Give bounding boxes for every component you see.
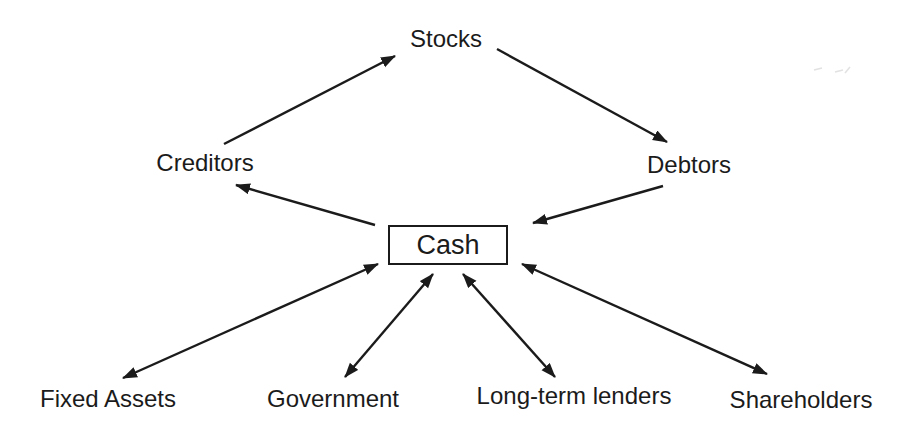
node-creditors: Creditors [156,150,253,176]
arrow-creditors-to-stocks [224,56,395,144]
node-fixed-assets: Fixed Assets [40,386,176,412]
node-shareholders: Shareholders [730,387,873,413]
arrow-layer [0,0,913,440]
arrow-cash-government-two-way [345,274,433,377]
diagram-canvas: Stocks Creditors Debtors Cash Fixed Asse… [0,0,913,440]
arrow-stocks-to-debtors [497,49,667,142]
scan-artifact [814,67,850,73]
arrow-cash-to-creditors [236,185,375,225]
arrow-debtors-to-cash [533,186,663,223]
node-stocks: Stocks [410,26,482,52]
arrow-cash-shareholders-two-way [522,264,767,374]
node-long-term-lenders: Long-term lenders [477,383,672,409]
node-debtors: Debtors [647,152,731,178]
arrow-cash-fixed-assets-two-way [123,264,378,378]
node-cash: Cash [388,225,508,265]
arrow-cash-long-term-lenders-two-way [463,274,555,377]
cash-label: Cash [416,230,479,261]
node-government: Government [267,386,399,412]
